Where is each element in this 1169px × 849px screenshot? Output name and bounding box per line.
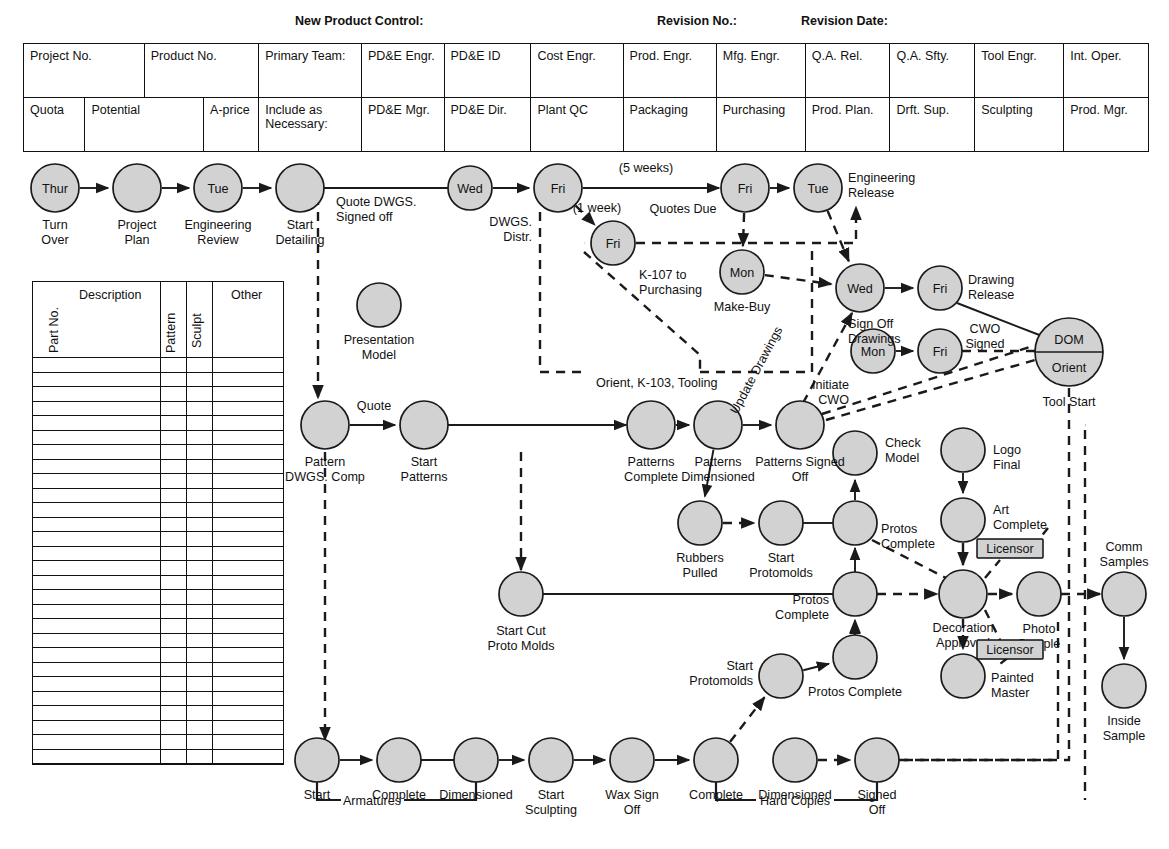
node-start_protomolds_2[interactable] bbox=[759, 654, 803, 698]
node-caption-turn_over: Turn bbox=[42, 218, 67, 232]
node-caption-start_protomolds_2: Start bbox=[726, 659, 753, 673]
licensor-badge[interactable]: Licensor bbox=[977, 640, 1043, 659]
edge-label-text: Quote bbox=[357, 399, 391, 413]
node-day-drawing_release: Fri bbox=[933, 282, 948, 296]
node-caption-start_patterns: Start bbox=[411, 455, 438, 469]
edge-label-text: (1 week) bbox=[573, 201, 621, 215]
node-hc_dimensioned[interactable] bbox=[773, 738, 817, 782]
edge bbox=[828, 211, 849, 261]
node-day-eng_release: Tue bbox=[807, 182, 828, 196]
diagram-edge-labels: Quote DWGS.Signed off(5 weeks)Quotes Due… bbox=[336, 161, 1043, 808]
edge-label-text: Hard Copies bbox=[760, 794, 830, 808]
node-caption-eng_release: Engineering bbox=[848, 171, 915, 185]
node-label-orient: Orient bbox=[1052, 361, 1087, 375]
node-hc_complete[interactable] bbox=[694, 738, 738, 782]
node-project_plan[interactable] bbox=[113, 164, 161, 212]
edge-label-text: Quote DWGS. bbox=[336, 195, 416, 209]
node-caption-patterns_dimensioned: Dimensioned bbox=[681, 470, 755, 484]
node-arm_complete[interactable] bbox=[377, 738, 421, 782]
node-day-cwo_signed: Fri bbox=[933, 345, 948, 359]
node-eng_review[interactable]: Tue bbox=[194, 164, 242, 212]
node-caption-inside_sample: Sample bbox=[1103, 729, 1146, 743]
node-arm_dimensioned[interactable] bbox=[454, 738, 498, 782]
node-caption-pattern_dwgs: DWGS. Comp bbox=[285, 470, 365, 484]
node-make_buy[interactable]: Mon bbox=[720, 250, 764, 294]
node-caption-turn_over: Over bbox=[41, 233, 68, 247]
node-sign_off_dwgs[interactable]: Wed bbox=[836, 264, 884, 312]
node-comm_samples[interactable] bbox=[1102, 572, 1146, 616]
node-caption-start_sculpting: Start bbox=[538, 788, 565, 802]
node-logo_final[interactable] bbox=[941, 428, 985, 472]
node-start_protomolds_1[interactable] bbox=[759, 501, 803, 545]
node-start_patterns[interactable] bbox=[400, 401, 448, 449]
node-caption-pattern_dwgs: Pattern bbox=[305, 455, 346, 469]
node-dom_orient[interactable]: DOMOrient bbox=[1035, 318, 1103, 386]
node-day-quote_dwgs: Wed bbox=[457, 182, 483, 196]
node-caption-check_model: Model bbox=[885, 451, 919, 465]
node-start_sculpting[interactable] bbox=[529, 738, 573, 782]
node-caption-start_detailing: Start bbox=[287, 218, 314, 232]
node-day-quotes_due: Fri bbox=[738, 182, 753, 196]
node-wax_sign_off[interactable] bbox=[610, 738, 654, 782]
node-protos_complete_2[interactable] bbox=[833, 572, 877, 616]
node-hc_signed_off[interactable] bbox=[855, 738, 899, 782]
node-caption-k107: Purchasing bbox=[639, 283, 702, 297]
node-pattern_dwgs[interactable] bbox=[301, 401, 349, 449]
node-caption-start_protomolds_1: Protomolds bbox=[749, 566, 813, 580]
node-caption-arm_start: Start bbox=[304, 788, 331, 802]
node-caption-eng_release: Release bbox=[848, 186, 894, 200]
node-k107[interactable]: Fri bbox=[591, 221, 635, 265]
node-rubbers_pulled[interactable] bbox=[678, 501, 722, 545]
node-art_complete[interactable] bbox=[941, 498, 985, 542]
node-arm_start[interactable] bbox=[295, 738, 339, 782]
node-quote_dwgs[interactable]: Wed bbox=[448, 166, 492, 210]
node-caption-start_protomolds_1: Start bbox=[768, 551, 795, 565]
node-day-initiate_cwo: Mon bbox=[861, 345, 886, 359]
node-turn_over[interactable]: Thur bbox=[31, 164, 79, 212]
node-caption-protos_complete_3: Protos Complete bbox=[808, 685, 902, 699]
node-caption-k107: K-107 to bbox=[639, 268, 687, 282]
edge-label-text: Armatures bbox=[343, 794, 401, 808]
node-caption-wax_sign_off: Off bbox=[624, 803, 641, 817]
edge-label-text: Update Drawings bbox=[728, 324, 786, 416]
node-caption-dwgs_distr: DWGS. bbox=[489, 215, 532, 229]
node-caption-patterns_complete: Patterns bbox=[628, 455, 675, 469]
node-caption-rubbers_pulled: Rubbers bbox=[676, 551, 724, 565]
node-presentation_model[interactable] bbox=[357, 283, 401, 327]
node-photo_sample[interactable] bbox=[1017, 572, 1061, 616]
node-caption-project_plan: Plan bbox=[124, 233, 149, 247]
node-eng_release[interactable]: Tue bbox=[794, 164, 842, 212]
node-quotes_due[interactable]: Fri bbox=[721, 164, 769, 212]
node-decoration_approved[interactable] bbox=[939, 570, 987, 618]
node-caption-start_detailing: Detailing bbox=[275, 233, 324, 247]
edge-label-text: Signed bbox=[965, 337, 1004, 351]
edge-label-text: CWO bbox=[970, 322, 1001, 336]
licensor-badge[interactable]: Licensor bbox=[977, 539, 1043, 558]
node-protos_complete_3[interactable] bbox=[833, 635, 877, 679]
node-caption-patterns_dimensioned: Patterns bbox=[695, 455, 742, 469]
node-patterns_signed_off[interactable] bbox=[776, 401, 824, 449]
node-start_cut_proto[interactable] bbox=[499, 572, 543, 616]
diagram-nodes: ThurTueWedFriFriFriTueMonWedFriMonFriDOM… bbox=[31, 164, 1149, 817]
node-caption-inside_sample: Inside bbox=[1107, 714, 1141, 728]
edge-label-text: Quotes Due bbox=[649, 202, 716, 216]
licensor-label: Licensor bbox=[986, 542, 1034, 556]
node-caption-comm_samples: Samples bbox=[1100, 555, 1149, 569]
node-patterns_complete[interactable] bbox=[627, 401, 675, 449]
node-caption-hc_signed_off: Off bbox=[869, 803, 886, 817]
node-protos_complete_1[interactable] bbox=[833, 501, 877, 545]
node-caption-project_plan: Project bbox=[117, 218, 157, 232]
node-start_detailing[interactable] bbox=[276, 164, 324, 212]
node-drawing_release[interactable]: Fri bbox=[918, 266, 962, 310]
node-caption-make_buy: Make-Buy bbox=[714, 300, 771, 314]
node-painted_master[interactable] bbox=[941, 654, 985, 698]
node-inside_sample[interactable] bbox=[1102, 664, 1146, 708]
edge-label-text: Signed off bbox=[336, 210, 393, 224]
node-cwo_signed[interactable]: Fri bbox=[918, 329, 962, 373]
node-day-eng_review: Tue bbox=[207, 182, 228, 196]
node-caption-protos_complete_2: Complete bbox=[775, 608, 829, 622]
node-caption-presentation_model: Presentation bbox=[344, 333, 415, 347]
node-caption-comm_samples: Comm bbox=[1105, 540, 1142, 554]
node-day-make_buy: Mon bbox=[730, 266, 755, 280]
node-caption-rubbers_pulled: Pulled bbox=[682, 566, 717, 580]
